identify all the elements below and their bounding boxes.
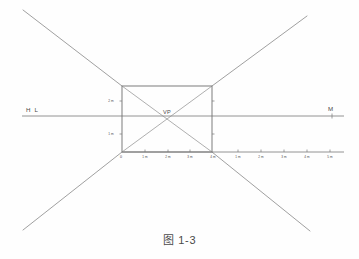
- measuring-point-label: M: [328, 105, 333, 112]
- vertical-scale-ticks: [120, 101, 215, 134]
- ground-scale-label: 4 m: [304, 155, 310, 159]
- figure-container: H L M VP 0 2 m 1 m 1 m 2 m 3 m 4 m 1 m 2…: [0, 0, 359, 259]
- vertical-scale-label: 1 m: [108, 132, 114, 136]
- ray-upper-left-line: [23, 10, 122, 86]
- vertical-scale-label: 2 m: [108, 99, 114, 103]
- figure-caption: 图 1-3: [0, 231, 359, 247]
- perspective-rays: [23, 10, 310, 231]
- ground-scale-label: 1 m: [142, 155, 148, 159]
- ray-lower-left-line: [23, 152, 122, 230]
- ground-scale-label: 5 m: [327, 155, 333, 159]
- ground-scale-label: 1 m: [235, 155, 241, 159]
- ray-lower-right-line: [212, 152, 310, 231]
- ground-scale-label: 2 m: [258, 155, 264, 159]
- ground-scale-label: 2 m: [165, 155, 171, 159]
- vanishing-point-label: VP: [163, 109, 171, 115]
- horizon-line-label: H L: [26, 106, 39, 113]
- ground-scale-label: 4 m: [210, 155, 216, 159]
- origin-label: 0: [120, 155, 122, 159]
- rectangle-diagonals: [122, 86, 212, 152]
- ground-scale-label: 3 m: [187, 155, 193, 159]
- ray-upper-right-line: [212, 16, 307, 86]
- perspective-diagram: H L M VP 0 2 m 1 m 1 m 2 m 3 m 4 m 1 m 2…: [0, 0, 359, 259]
- ground-scale-label: 3 m: [281, 155, 287, 159]
